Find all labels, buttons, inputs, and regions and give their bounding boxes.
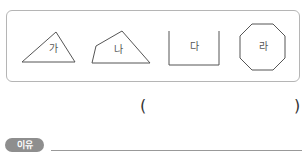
shape-label-ga: 가 bbox=[49, 44, 58, 54]
answer-close-paren: ) bbox=[294, 98, 300, 114]
reason-answer-line[interactable] bbox=[51, 150, 302, 151]
answer-blank[interactable] bbox=[152, 98, 292, 116]
shape-label-da: 다 bbox=[190, 42, 199, 52]
reason-badge: 이유 bbox=[5, 138, 44, 152]
shape-label-na: 나 bbox=[114, 45, 123, 55]
answer-open-paren: ( bbox=[140, 98, 146, 114]
shape-label-ra: 라 bbox=[259, 42, 268, 52]
shapes-drawing bbox=[0, 0, 307, 161]
